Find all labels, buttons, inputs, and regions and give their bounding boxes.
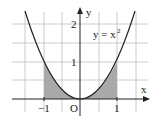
curve-label-exponent: 2 — [117, 27, 121, 35]
parabola-diagram: 2 1 y x O −1 1 y = x 2 — [0, 0, 162, 123]
y-tick-2: 2 — [71, 18, 77, 30]
y-tick-1: 1 — [71, 56, 77, 68]
x-tick-neg1: −1 — [38, 102, 50, 114]
y-axis-arrow-icon — [77, 7, 83, 14]
x-tick-1: 1 — [114, 102, 120, 114]
x-axis-arrow-icon — [143, 96, 150, 102]
shaded-region-right — [80, 62, 117, 99]
x-axis-label: x — [141, 83, 147, 95]
axes — [12, 10, 148, 116]
curve-label: y = x — [93, 28, 116, 40]
y-axis-label: y — [86, 6, 92, 18]
origin-label: O — [70, 102, 78, 114]
graph-canvas: 2 1 y x O −1 1 y = x 2 — [0, 0, 162, 123]
